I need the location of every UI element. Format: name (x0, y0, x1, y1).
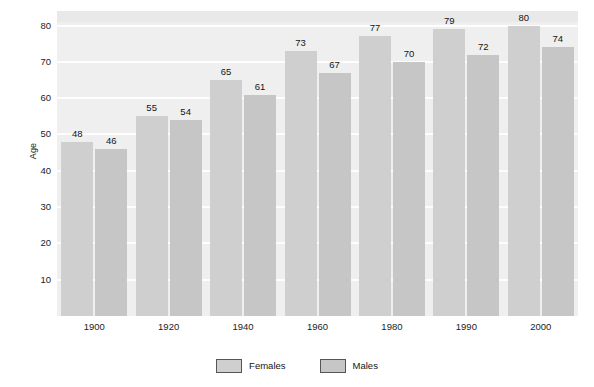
legend-entry-females[interactable]: Females (216, 359, 285, 373)
bar-females-1940 (210, 80, 242, 316)
bar-females-1960 (285, 51, 317, 316)
y-axis-tick-label: 50 (7, 128, 51, 140)
legend-entry-males[interactable]: Males (320, 359, 378, 373)
bar-value-label: 79 (427, 15, 471, 27)
bar-males-1960 (319, 73, 351, 316)
x-axis-tick-label: 1960 (280, 320, 354, 333)
bar-males-1920 (170, 120, 202, 316)
legend-label: Males (353, 360, 378, 372)
x-axis-tick-label: 2000 (504, 320, 578, 333)
gridline (57, 25, 578, 27)
bar-males-1900 (95, 149, 127, 316)
bar-males-1990 (467, 55, 499, 316)
y-axis-tick-label: 80 (7, 20, 51, 32)
gridline (57, 97, 578, 99)
plot-area (57, 11, 578, 316)
x-axis-tick-label: 1920 (131, 320, 205, 333)
bar-value-label: 80 (502, 12, 546, 24)
x-axis-tick-label: 1990 (429, 320, 503, 333)
bar-value-label: 70 (387, 48, 431, 60)
y-axis-tick-label: 60 (7, 92, 51, 104)
y-axis-tick-label: 20 (7, 237, 51, 249)
y-axis-tick-labels: 1020304050607080 (0, 11, 51, 316)
x-axis-tick-label: 1940 (206, 320, 280, 333)
y-axis-tick-label: 40 (7, 165, 51, 177)
legend-label: Females (249, 360, 285, 372)
bar-value-label: 46 (89, 135, 133, 147)
bar-males-1940 (244, 95, 276, 316)
y-axis-tick-label: 30 (7, 201, 51, 213)
bar-value-label: 67 (313, 59, 357, 71)
bar-value-label: 54 (164, 106, 208, 118)
x-axis-tick-label: 1980 (355, 320, 429, 333)
bar-females-1990 (433, 29, 465, 316)
bar-females-2000 (508, 26, 540, 316)
bar-females-1920 (136, 116, 168, 316)
bar-value-label: 65 (204, 66, 248, 78)
bar-chart: Age 1020304050607080 1900192019401960198… (0, 0, 594, 387)
bar-value-label: 74 (536, 33, 580, 45)
bar-value-label: 73 (279, 37, 323, 49)
plot-top-band (57, 11, 578, 22)
bar-value-label: 77 (353, 22, 397, 34)
bar-value-label: 61 (238, 81, 282, 93)
bar-females-1900 (61, 142, 93, 316)
y-axis-tick-label: 70 (7, 56, 51, 68)
bar-males-2000 (542, 47, 574, 316)
bar-males-1980 (393, 62, 425, 316)
y-axis-tick-label: 10 (7, 274, 51, 286)
legend-swatch-males (320, 359, 346, 373)
legend-swatch-females (216, 359, 242, 373)
bar-value-label: 72 (461, 41, 505, 53)
x-axis-tick-label: 1900 (57, 320, 131, 333)
chart-legend: FemalesMales (0, 356, 594, 376)
bar-females-1980 (359, 36, 391, 316)
